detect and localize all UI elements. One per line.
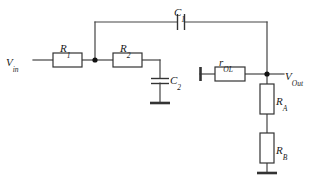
- label-r-ol: rOL: [219, 52, 233, 72]
- circuit-diagram: Vin R1 R2 C1 C2 rOL VOut RA RB: [0, 0, 317, 185]
- label-r2: R2: [120, 38, 130, 58]
- label-v-in: Vin: [6, 52, 19, 72]
- label-r-b: RB: [276, 140, 287, 160]
- label-r-a: RA: [276, 91, 287, 111]
- label-v-out: VOut: [285, 66, 303, 86]
- label-r1: R1: [60, 38, 70, 58]
- label-c2: C2: [170, 70, 181, 90]
- node-dot-vout: [264, 71, 269, 76]
- resistor-ra: [260, 84, 274, 114]
- node-dot-rc-junction: [92, 57, 97, 62]
- schematic-canvas: [0, 0, 317, 185]
- resistor-rb: [260, 133, 274, 163]
- label-c1: C1: [174, 2, 185, 22]
